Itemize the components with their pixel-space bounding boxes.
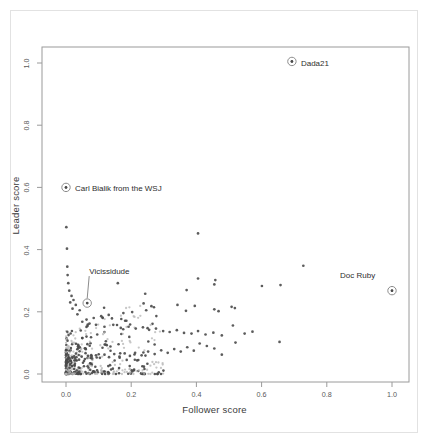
x-tick-label: 0.8: [322, 390, 332, 399]
point-annotation-label: Doc Ruby: [340, 271, 375, 280]
x-tick-label: 0.4: [191, 390, 201, 399]
y-axis-title: Leader score: [10, 161, 21, 251]
y-tick-label: 0.0: [22, 367, 31, 383]
x-axis-title: Follower score: [0, 404, 429, 415]
point-annotation-label: Vicissidude: [89, 267, 129, 276]
x-tick-label: 0.0: [61, 390, 71, 399]
x-tick-label: 0.2: [126, 390, 136, 399]
scatter-plot-figure: 0.00.20.40.60.81.00.00.20.40.60.81.0 Dad…: [0, 0, 429, 444]
y-tick-label: 1.0: [22, 56, 31, 72]
y-tick-label: 0.6: [22, 180, 31, 196]
y-tick-label: 0.2: [22, 304, 31, 320]
y-tick-label: 0.4: [22, 242, 31, 258]
dense-cluster-layer: [65, 305, 165, 375]
data-points-layer: [65, 60, 394, 366]
plot-canvas: [0, 0, 429, 444]
y-tick-label: 0.8: [22, 118, 31, 134]
x-tick-label: 1.0: [387, 390, 397, 399]
x-tick-label: 0.6: [257, 390, 267, 399]
point-annotation-label: Carl Bialik from the WSJ: [75, 184, 162, 193]
point-annotation-label: Dada21: [301, 59, 329, 68]
